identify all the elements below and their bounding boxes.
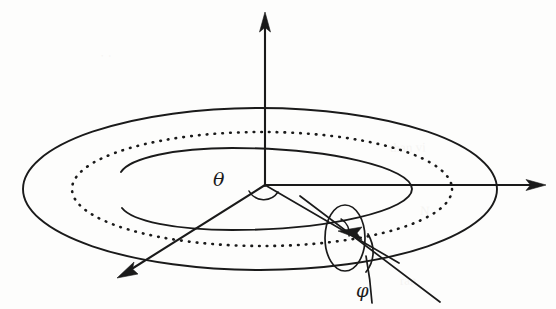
ray-to-lower-right bbox=[265, 185, 399, 263]
x-axis bbox=[265, 180, 546, 191]
inner-disk-arc bbox=[121, 148, 412, 230]
svg-text:ran: ran bbox=[400, 272, 418, 288]
theta-label: θ bbox=[213, 168, 225, 190]
y-axis bbox=[117, 185, 265, 278]
coordinate-diagram: than vi N ran · · bbox=[0, 0, 556, 309]
figure-root: than vi N ran · · bbox=[0, 0, 556, 309]
y-axis-arrowhead bbox=[117, 262, 138, 278]
svg-text:· ·: · · bbox=[100, 48, 112, 63]
z-axis bbox=[260, 12, 271, 186]
svg-text:N: N bbox=[420, 203, 431, 218]
phi-label: φ bbox=[356, 280, 369, 301]
